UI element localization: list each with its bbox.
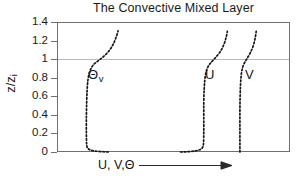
profile-curves: [0, 0, 303, 181]
curve-label-u: U: [205, 67, 214, 82]
curve-label-v: V: [245, 67, 254, 82]
curve-label-theta-v-text: Θ: [88, 67, 98, 82]
curve-v: [240, 31, 256, 152]
convective-mixed-layer-figure: The Convective Mixed Layer z/zi 00.20.40…: [0, 0, 303, 181]
curve-theta-v: [86, 31, 118, 152]
x-axis-label: U, V,Θ: [98, 158, 233, 172]
curve-label-theta-v: Θv: [88, 67, 103, 82]
curve-u: [180, 31, 227, 152]
x-axis-label-text: U, V,Θ: [98, 158, 134, 172]
arrow-right-icon: [139, 160, 233, 170]
curve-label-theta-v-subscript: v: [99, 73, 104, 84]
